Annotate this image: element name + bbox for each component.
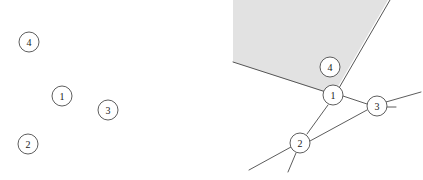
node-4[interactable]: 4 bbox=[320, 57, 340, 77]
figure-svg: 4 1 3 2 bbox=[0, 0, 423, 180]
edge-node1-node3[interactable] bbox=[343, 96, 367, 104]
node-2[interactable]: 2 bbox=[290, 133, 310, 153]
edge-node3-northeast-ray[interactable] bbox=[386, 92, 421, 102]
node-label-1: 1 bbox=[60, 91, 65, 102]
edge-node2-node3[interactable] bbox=[310, 110, 367, 141]
node-label-1: 1 bbox=[331, 90, 336, 101]
edge-node2-southwest-ray[interactable] bbox=[249, 147, 291, 170]
figure-canvas: 4 1 3 2 bbox=[0, 0, 423, 180]
node-label-4: 4 bbox=[27, 37, 32, 48]
node-3[interactable]: 3 bbox=[98, 100, 118, 120]
node-label-2: 2 bbox=[26, 139, 31, 150]
shaded-face-region bbox=[233, 0, 388, 95]
node-label-3: 3 bbox=[106, 105, 111, 116]
node-4[interactable]: 4 bbox=[19, 32, 39, 52]
isolated-vertices-panel: 4 1 3 2 bbox=[18, 32, 118, 154]
embedded-graph-panel: 4 1 3 2 bbox=[233, 0, 421, 172]
node-1[interactable]: 1 bbox=[323, 85, 343, 105]
node-label-2: 2 bbox=[298, 138, 303, 149]
node-2[interactable]: 2 bbox=[18, 134, 38, 154]
node-1[interactable]: 1 bbox=[52, 86, 72, 106]
node-label-4: 4 bbox=[328, 62, 333, 73]
node-3[interactable]: 3 bbox=[367, 96, 387, 116]
node-label-3: 3 bbox=[375, 101, 380, 112]
edge-node1-node2[interactable] bbox=[307, 105, 328, 134]
edge-node2-south-ray[interactable] bbox=[288, 153, 296, 172]
